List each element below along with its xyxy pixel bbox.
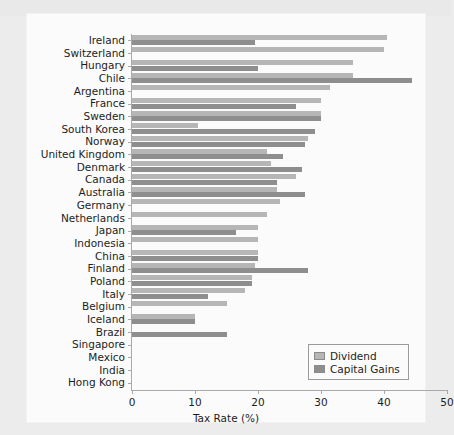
category-label-iceland: Iceland bbox=[27, 313, 125, 326]
bar-dividend bbox=[132, 35, 387, 40]
legend-label-capital-gains: Capital Gains bbox=[330, 363, 400, 375]
category-label-indonesia: Indonesia bbox=[27, 237, 125, 250]
category-label-france: France bbox=[27, 97, 125, 110]
bar-capital-gains bbox=[132, 40, 255, 45]
bar-row: Italy bbox=[27, 288, 425, 301]
legend-label-dividend: Dividend bbox=[330, 350, 377, 362]
category-label-switzerland: Switzerland bbox=[27, 47, 125, 60]
x-axis-tick-label: 50 bbox=[440, 396, 453, 408]
bar-row: Denmark bbox=[27, 161, 425, 174]
bar-row: Australia bbox=[27, 186, 425, 199]
bar-row: Canada bbox=[27, 173, 425, 186]
y-axis-tick bbox=[128, 218, 132, 219]
bar-row: Argentina bbox=[27, 85, 425, 98]
category-label-denmark: Denmark bbox=[27, 161, 125, 174]
bar-dividend bbox=[132, 275, 252, 280]
bar-dividend bbox=[132, 199, 280, 204]
category-label-mexico: Mexico bbox=[27, 351, 125, 364]
bar-dividend bbox=[132, 288, 245, 293]
category-label-south-korea: South Korea bbox=[27, 123, 125, 136]
bar-dividend bbox=[132, 263, 255, 268]
bar-dividend bbox=[132, 47, 384, 52]
category-label-canada: Canada bbox=[27, 173, 125, 186]
bar-capital-gains bbox=[132, 256, 258, 261]
y-axis-tick bbox=[128, 383, 132, 384]
category-label-belgium: Belgium bbox=[27, 300, 125, 313]
category-label-italy: Italy bbox=[27, 288, 125, 301]
category-label-singapore: Singapore bbox=[27, 338, 125, 351]
y-axis-tick bbox=[128, 307, 132, 308]
category-label-hungary: Hungary bbox=[27, 59, 125, 72]
y-axis-tick bbox=[128, 357, 132, 358]
x-axis-label: Tax Rate (%) bbox=[27, 412, 425, 424]
bar-row: Chile bbox=[27, 72, 425, 85]
bar-capital-gains bbox=[132, 332, 227, 337]
bar-capital-gains bbox=[132, 180, 277, 185]
bar-row: China bbox=[27, 250, 425, 263]
bar-dividend bbox=[132, 85, 330, 90]
category-label-japan: Japan bbox=[27, 224, 125, 237]
bar-capital-gains bbox=[132, 142, 305, 147]
bar-dividend bbox=[132, 225, 258, 230]
bar-capital-gains bbox=[132, 129, 315, 134]
bar-capital-gains bbox=[132, 230, 236, 235]
category-label-brazil: Brazil bbox=[27, 326, 125, 339]
bar-dividend bbox=[132, 314, 195, 319]
category-label-norway: Norway bbox=[27, 135, 125, 148]
x-axis-tick bbox=[258, 390, 259, 394]
bar-capital-gains bbox=[132, 66, 258, 71]
bar-row: Brazil bbox=[27, 326, 425, 339]
bar-dividend bbox=[132, 73, 353, 78]
x-axis-tick bbox=[132, 390, 133, 394]
bar-dividend bbox=[132, 98, 321, 103]
bar-capital-gains bbox=[132, 78, 412, 83]
x-axis-line bbox=[131, 390, 448, 391]
bar-dividend bbox=[132, 301, 227, 306]
bar-row: South Korea bbox=[27, 123, 425, 136]
y-axis-tick bbox=[128, 91, 132, 92]
bar-dividend bbox=[132, 212, 267, 217]
bar-row: Belgium bbox=[27, 300, 425, 313]
bar-capital-gains bbox=[132, 294, 208, 299]
bar-capital-gains bbox=[132, 281, 252, 286]
chart-card: IrelandSwitzerlandHungaryChileArgentinaF… bbox=[27, 14, 425, 422]
bar-row: Germany bbox=[27, 199, 425, 212]
category-label-finland: Finland bbox=[27, 262, 125, 275]
y-axis-tick bbox=[128, 370, 132, 371]
bar-capital-gains bbox=[132, 268, 308, 273]
bar-capital-gains bbox=[132, 167, 302, 172]
bar-dividend bbox=[132, 111, 321, 116]
bar-row: Poland bbox=[27, 275, 425, 288]
x-axis-tick-label: 10 bbox=[188, 396, 201, 408]
x-axis-tick bbox=[384, 390, 385, 394]
category-label-india: India bbox=[27, 364, 125, 377]
x-axis-tick bbox=[447, 390, 448, 394]
category-label-argentina: Argentina bbox=[27, 85, 125, 98]
category-label-china: China bbox=[27, 250, 125, 263]
x-axis-tick-label: 30 bbox=[314, 396, 327, 408]
bar-dividend bbox=[132, 149, 267, 154]
category-label-ireland: Ireland bbox=[27, 34, 125, 47]
bar-row: Sweden bbox=[27, 110, 425, 123]
x-axis-tick-label: 20 bbox=[251, 396, 264, 408]
bar-row: Indonesia bbox=[27, 237, 425, 250]
bar-dividend bbox=[132, 60, 353, 65]
x-axis-tick bbox=[195, 390, 196, 394]
x-axis-tick bbox=[321, 390, 322, 394]
bar-capital-gains bbox=[132, 154, 283, 159]
bar-dividend bbox=[132, 161, 271, 166]
dividend-swatch bbox=[314, 352, 325, 360]
chart-legend: Dividend Capital Gains bbox=[308, 344, 409, 380]
category-label-hong-kong: Hong Kong bbox=[27, 376, 125, 389]
bar-row: Netherlands bbox=[27, 212, 425, 225]
bar-capital-gains bbox=[132, 104, 296, 109]
bar-row: Ireland bbox=[27, 34, 425, 47]
category-label-poland: Poland bbox=[27, 275, 125, 288]
bar-dividend bbox=[132, 237, 258, 242]
y-axis-tick bbox=[128, 53, 132, 54]
category-label-united-kingdom: United Kingdom bbox=[27, 148, 125, 161]
bar-row: Iceland bbox=[27, 313, 425, 326]
bar-row: Norway bbox=[27, 135, 425, 148]
bar-row: Japan bbox=[27, 224, 425, 237]
y-axis-tick bbox=[128, 205, 132, 206]
